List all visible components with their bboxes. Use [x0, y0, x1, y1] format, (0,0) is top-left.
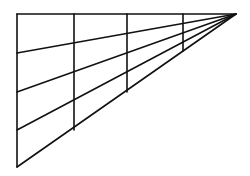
vertical-lines [17, 14, 183, 167]
perspective-grid-diagram [0, 0, 250, 176]
